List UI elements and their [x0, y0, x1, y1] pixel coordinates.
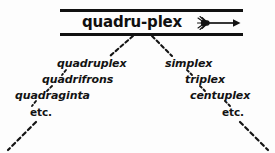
- branch-left-item-3: etc.: [30, 106, 52, 118]
- branch-left-item-0: quadruplex: [57, 57, 126, 70]
- branch-left-item-2: quadraginta: [15, 89, 90, 102]
- yields-arrow-icon: [197, 15, 241, 29]
- branch-right-item-2: centuplex: [190, 89, 250, 102]
- branch-right-item-1: triplex: [185, 73, 225, 86]
- figure-canvas: quadru-plex: [0, 0, 275, 153]
- headword-rule-bottom: [60, 33, 243, 36]
- branch-right-item-0: simplex: [165, 57, 212, 70]
- branch-left-item-1: quadrifrons: [42, 73, 113, 86]
- branch-right-item-3: etc.: [222, 106, 244, 118]
- headword-label: quadru-plex: [72, 12, 192, 32]
